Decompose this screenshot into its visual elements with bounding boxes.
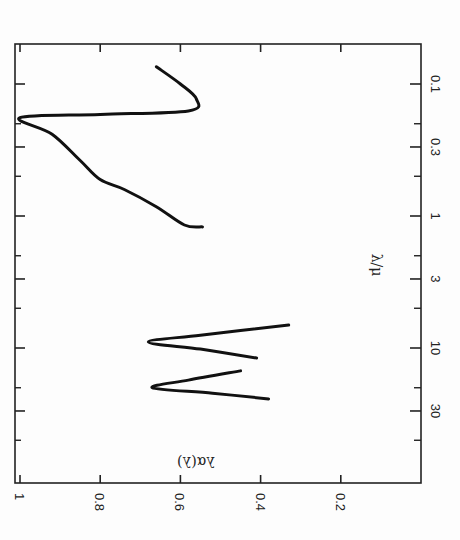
data-series: [19, 67, 289, 399]
series-curve: [19, 67, 203, 227]
x-axis-title: λ/μ: [369, 254, 385, 277]
y-tick-label: 0.2: [333, 493, 348, 511]
y-tick-label: 0.8: [92, 493, 107, 511]
y-tick-label: 1: [12, 493, 27, 500]
x-tick-label: 30: [428, 404, 443, 418]
plot-frame: [15, 44, 421, 483]
series-curve: [152, 371, 269, 399]
series-curve: [148, 325, 288, 358]
x-tick-label: 3: [428, 275, 443, 282]
x-tick-label: 0.1: [428, 75, 443, 93]
y-tick-label: 0.4: [253, 493, 268, 511]
y-tick-label: 0.6: [172, 493, 187, 511]
x-tick-label: 10: [428, 341, 443, 355]
x-tick-label: 0.3: [428, 138, 443, 156]
x-tick-label: 1: [428, 212, 443, 219]
chart: 10.80.60.40.2 0.10.3131030 λ/μ λα(λ): [0, 0, 460, 540]
y-axis-title: λα(λ): [177, 454, 215, 470]
